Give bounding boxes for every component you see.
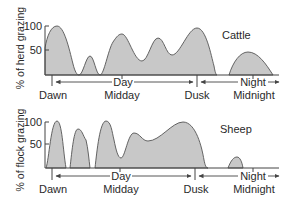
cattle-species-label: Cattle: [222, 29, 251, 41]
sheep-panel: 100 50 % of flock grazing Day Night Dawn…: [14, 108, 279, 195]
cattle-dawn-label: Dawn: [39, 89, 67, 101]
cattle-panel: 100 50 % of herd grazing Day Night Dawn …: [14, 7, 279, 101]
cattle-midday-label: Midday: [104, 89, 140, 101]
sheep-dawn-label: Dawn: [39, 183, 67, 195]
sheep-y-axis-label: % of flock grazing: [14, 108, 26, 191]
sheep-day-label: Day: [111, 170, 131, 182]
sheep-ytick-label-50: 50: [30, 138, 42, 150]
sheep-dusk-label: Dusk: [183, 183, 209, 195]
sheep-midday-label: Midday: [103, 183, 139, 195]
sheep-midnight-label: Midnight: [233, 183, 275, 195]
grazing-chart-figure: 100 50 % of herd grazing Day Night Dawn …: [0, 0, 292, 208]
cattle-day-label: Day: [113, 76, 133, 88]
cattle-night-label: Night: [240, 76, 266, 88]
cattle-grazing-area-day: [45, 26, 217, 75]
cattle-midnight-label: Midnight: [233, 89, 275, 101]
cattle-ytick-label-100: 100: [24, 20, 42, 32]
sheep-grazing-hump-2: [70, 129, 90, 168]
sheep-grazing-hump-night: [228, 157, 243, 168]
cattle-y-axis-label: % of herd grazing: [14, 7, 26, 89]
sheep-species-label: Sheep: [220, 123, 252, 135]
cattle-dusk-label: Dusk: [184, 89, 210, 101]
cattle-grazing-area-night: [229, 52, 273, 75]
cattle-ytick-label-50: 50: [30, 44, 42, 56]
sheep-ytick-label-100: 100: [24, 116, 42, 128]
sheep-grazing-main-day: [95, 121, 208, 168]
sheep-night-label: Night: [240, 170, 266, 182]
